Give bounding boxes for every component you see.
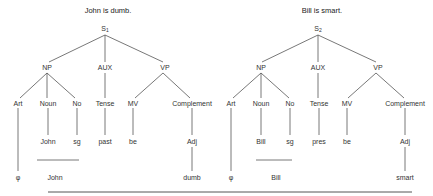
tree-edges bbox=[0, 0, 433, 196]
tree2-mv-value: be bbox=[343, 138, 351, 145]
tree1-null-article: φ bbox=[16, 174, 21, 181]
tree2-vp: VP bbox=[373, 64, 382, 71]
tree2-noun: Noun bbox=[253, 100, 270, 107]
tree1-mv-value: be bbox=[129, 138, 137, 145]
tree1-tense: Tense bbox=[96, 100, 115, 107]
tree2-tense-value: pres bbox=[312, 138, 326, 145]
tree1-art: Art bbox=[14, 100, 23, 107]
tree1-adj: Adj bbox=[187, 138, 197, 145]
tree1-adj-output: dumb bbox=[183, 174, 201, 181]
tree2-adj-output: smart bbox=[396, 174, 414, 181]
root-subscript: 1 bbox=[106, 27, 109, 33]
tree2-art: Art bbox=[227, 100, 236, 107]
tree2-title: Bill is smart. bbox=[302, 6, 342, 15]
root-subscript: 2 bbox=[319, 27, 322, 33]
tree2-root: S2 bbox=[314, 25, 321, 33]
tree1-noun-value: John bbox=[40, 138, 55, 145]
tree1-aux: AUX bbox=[98, 64, 112, 71]
tree1-tense-value: past bbox=[98, 138, 111, 145]
tree2-mv: MV bbox=[342, 100, 353, 107]
tree2-complement: Complement bbox=[385, 100, 425, 107]
tree1-np: NP bbox=[42, 64, 52, 71]
tree2-aux: AUX bbox=[311, 64, 325, 71]
tree1-complement: Complement bbox=[172, 100, 212, 107]
tree2-np-output: Bill bbox=[271, 174, 280, 181]
tree2-noun-value: Bill bbox=[256, 138, 265, 145]
tree2-no: No bbox=[286, 100, 295, 107]
tree2-np: NP bbox=[256, 64, 266, 71]
tree2-tense: Tense bbox=[310, 100, 329, 107]
tree1-number-value: sg bbox=[73, 138, 80, 145]
tree1-mv: MV bbox=[128, 100, 139, 107]
tree2-null-article: φ bbox=[229, 174, 234, 181]
tree2-number-value: sg bbox=[286, 138, 293, 145]
tree1-np-output: John bbox=[47, 174, 62, 181]
tree1-root: S1 bbox=[101, 25, 108, 33]
tree1-noun: Noun bbox=[40, 100, 57, 107]
tree1-title: John is dumb. bbox=[85, 6, 132, 15]
tree2-adj: Adj bbox=[400, 138, 410, 145]
tree1-vp: VP bbox=[160, 64, 169, 71]
tree1-no: No bbox=[73, 100, 82, 107]
